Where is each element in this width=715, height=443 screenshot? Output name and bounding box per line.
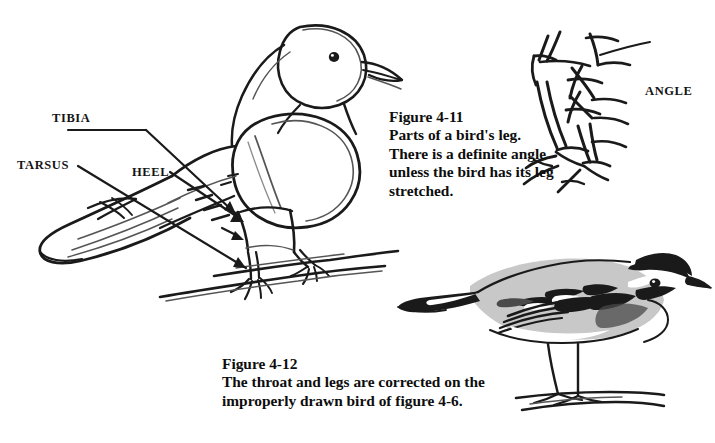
- label-heel: HEEL: [132, 165, 169, 180]
- label-tibia: TIBIA: [52, 111, 90, 126]
- perched-bird-sketch: [40, 25, 402, 301]
- figure-4-11-number: Figure 4-11: [389, 108, 554, 126]
- document-page: TIBIA TARSUS HEEL ANGLE Figure 4-11 Part…: [0, 0, 715, 443]
- figure-4-11-line-3: unless the bird has its leg: [389, 163, 554, 181]
- figure-4-12-line-1: The throat and legs are corrected on the: [222, 373, 485, 391]
- label-tarsus: TARSUS: [17, 158, 69, 173]
- figure-4-11-line-4: stretched.: [389, 182, 554, 200]
- label-angle: ANGLE: [645, 84, 692, 99]
- figure-4-12-line-2: improperly drawn bird of figure 4-6.: [222, 392, 485, 410]
- figure-4-11-caption: Figure 4-11 Parts of a bird's leg. There…: [389, 108, 554, 200]
- figure-4-12-number: Figure 4-12: [222, 355, 485, 373]
- figure-4-11-line-1: Parts of a bird's leg.: [389, 126, 554, 144]
- figure-4-12-caption: Figure 4-12 The throat and legs are corr…: [222, 355, 485, 410]
- figure-4-11-line-2: There is a definite angle: [389, 145, 554, 163]
